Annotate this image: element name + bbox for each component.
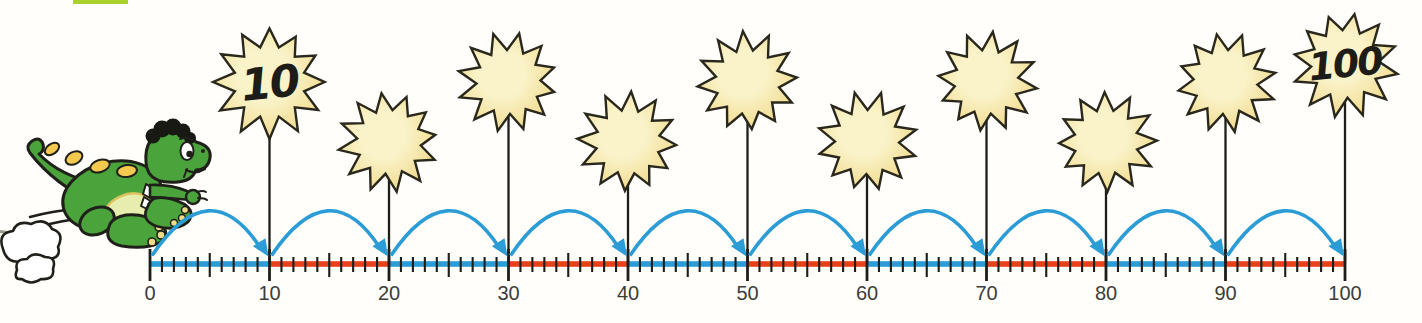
tick-mark [245, 257, 247, 272]
tick-mark [1033, 257, 1035, 272]
dragon-nostril [201, 149, 205, 153]
suns: 10100 [213, 14, 1397, 263]
jump-arc [750, 211, 859, 256]
tick-mark [639, 257, 641, 272]
tick-mark [723, 257, 725, 272]
tick-mark [782, 257, 784, 272]
tick-mark [902, 257, 904, 272]
tick-mark [233, 257, 235, 272]
tick-mark [496, 257, 498, 272]
sun-number-label: 100 [1306, 38, 1385, 90]
tick-mark [1165, 253, 1167, 277]
tick-mark [1320, 257, 1322, 272]
dragon-spot [43, 140, 62, 157]
dust-cloud-icon [16, 254, 54, 282]
tick-mark [1021, 257, 1023, 272]
tick-mark [962, 257, 964, 272]
tick-mark [974, 257, 976, 272]
tick-mark [1260, 257, 1262, 272]
tick-mark [412, 257, 414, 272]
dragon-spot [63, 148, 85, 167]
dragon-toenail [148, 238, 156, 246]
tick-mark [591, 257, 593, 272]
tick-mark [603, 257, 605, 272]
tick-mark [1153, 257, 1155, 272]
jump-arc [1228, 211, 1337, 256]
tick-mark [1045, 253, 1047, 277]
tick-label: 80 [1095, 282, 1117, 304]
tick-mark [400, 257, 402, 272]
tick-mark [1236, 257, 1238, 272]
tick-labels: 0102030405060708090100 [144, 282, 1361, 304]
tick-mark [1296, 257, 1298, 272]
tick-mark [1057, 257, 1059, 272]
tick-mark [878, 257, 880, 272]
number-line-illustration: 10100 0102030405060708090100 [0, 0, 1422, 323]
tick-mark [328, 253, 330, 277]
sun-icon [819, 93, 916, 189]
tick-label: 90 [1214, 282, 1236, 304]
tick-mark [997, 257, 999, 272]
dragon-eye [181, 142, 194, 160]
tick-mark [663, 257, 665, 272]
tick-mark [340, 257, 342, 272]
sun-number-label: 10 [238, 54, 302, 111]
tick-mark [699, 257, 701, 272]
tick-mark [914, 257, 916, 272]
tick-label: 70 [975, 282, 997, 304]
dragon-pupil [186, 151, 192, 157]
tick-mark [1069, 257, 1071, 272]
tick-mark [1272, 257, 1274, 272]
jump-arc [391, 211, 500, 256]
tick-label: 60 [856, 282, 878, 304]
tick-mark [1201, 257, 1203, 272]
dragon-illustration [0, 119, 210, 283]
tick-mark [161, 257, 163, 272]
tick-mark [519, 257, 521, 272]
tick-mark [675, 257, 677, 272]
tick-mark [770, 257, 772, 272]
dragon-toenail [182, 207, 189, 214]
tick-mark [651, 257, 653, 272]
tick-label: 10 [258, 282, 280, 304]
tick-mark [257, 257, 259, 272]
tick-mark [436, 257, 438, 272]
tick-mark [484, 257, 486, 272]
tick-mark [280, 257, 282, 272]
sun-icon [1179, 34, 1276, 131]
tick-mark [460, 257, 462, 272]
tick-mark [472, 257, 474, 272]
tick-mark [818, 257, 820, 272]
tick-mark [579, 257, 581, 272]
tick-mark [950, 257, 952, 272]
tick-mark [735, 257, 737, 272]
tick-mark [854, 257, 856, 272]
tick-mark [364, 257, 366, 272]
tick-mark [794, 257, 796, 272]
sun-icon [339, 93, 436, 191]
sun-icon [1059, 92, 1157, 192]
tick-mark [1332, 257, 1334, 272]
tick-label: 100 [1328, 282, 1361, 304]
tick-mark [424, 257, 426, 272]
tick-mark [1189, 257, 1191, 272]
tick-mark [555, 257, 557, 272]
tick-mark [304, 257, 306, 272]
tick-mark [531, 257, 533, 272]
tick-label: 0 [144, 282, 155, 304]
sun-icon [459, 34, 554, 131]
page: 10100 0102030405060708090100 [0, 0, 1422, 323]
tick-mark [711, 257, 713, 272]
tick-mark [1284, 253, 1286, 277]
jump-arc [511, 211, 620, 256]
tick-mark [1308, 257, 1310, 272]
tick-mark [185, 257, 187, 272]
sun-icon [698, 31, 797, 129]
tick-mark [316, 257, 318, 272]
jump-arc [272, 211, 381, 256]
jump-arc [869, 211, 978, 256]
jump-arc [1108, 211, 1217, 256]
tick-mark [1093, 257, 1095, 272]
tick-mark [615, 257, 617, 272]
tick-mark [1081, 257, 1083, 272]
